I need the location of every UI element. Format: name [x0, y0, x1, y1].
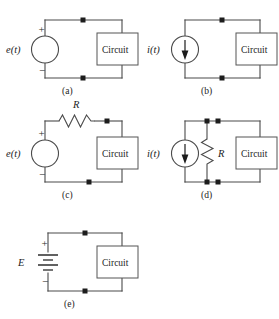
- minus-sign: −: [39, 64, 45, 76]
- node-dot: [216, 180, 221, 185]
- source-label: i(t): [147, 44, 160, 56]
- node-dot: [216, 119, 221, 124]
- node-dot: [87, 180, 92, 185]
- panel-a: + − e(t) Circuit (a): [0, 0, 140, 100]
- source-label: E: [17, 257, 25, 268]
- panel-caption: (e): [64, 299, 75, 310]
- panel-caption: (a): [62, 86, 73, 97]
- panel-caption: (b): [201, 86, 212, 97]
- node-dot: [83, 231, 88, 236]
- plus-sign: +: [42, 237, 48, 249]
- resistor-symbol: [59, 115, 95, 127]
- voltage-source-symbol: [32, 36, 59, 63]
- source-label: e(t): [6, 44, 21, 56]
- minus-sign: −: [42, 275, 48, 287]
- panel-caption: (c): [62, 190, 73, 201]
- node-dot: [83, 289, 88, 294]
- node-dot: [220, 76, 225, 81]
- resistor-label: R: [72, 99, 80, 110]
- panel-b: i(t) Circuit (b): [140, 0, 279, 100]
- node-dot: [205, 180, 210, 185]
- panel-e: + − E Circuit (e): [0, 207, 150, 319]
- plus-sign: +: [39, 127, 45, 139]
- node-dot: [205, 119, 210, 124]
- node-dot: [220, 18, 225, 23]
- node-dot: [105, 119, 110, 124]
- panel-caption: (d): [201, 190, 212, 201]
- node-dot: [81, 76, 86, 81]
- circuit-figure: + − e(t) Circuit (a) i(t) Circuit (b): [0, 0, 279, 319]
- plus-sign: +: [39, 23, 45, 35]
- resistor-label: R: [217, 148, 225, 159]
- source-label: i(t): [147, 148, 160, 160]
- circuit-box-label: Circuit: [241, 149, 268, 159]
- voltage-source-symbol: [32, 140, 59, 167]
- panel-d: i(t) R Circuit (d): [140, 97, 279, 207]
- resistor-symbol: [202, 139, 214, 182]
- source-label: e(t): [6, 148, 21, 160]
- panel-c: R + − e(t) Circuit (c): [0, 97, 140, 207]
- circuit-box-label: Circuit: [241, 45, 268, 55]
- circuit-box-label: Circuit: [102, 45, 129, 55]
- circuit-box-label: Circuit: [102, 258, 129, 268]
- circuit-box-label: Circuit: [102, 149, 129, 159]
- node-dot: [81, 18, 86, 23]
- minus-sign: −: [39, 168, 45, 180]
